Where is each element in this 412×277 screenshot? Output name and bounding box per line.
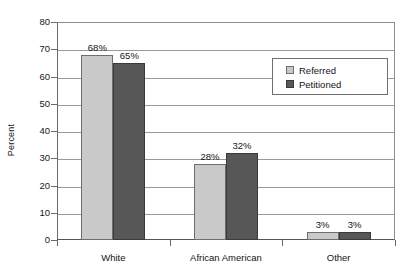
x-category-label: White (57, 252, 170, 263)
legend-item-petitioned: Petitioned (286, 77, 387, 91)
x-tick-mark (395, 240, 396, 246)
y-tick-mark (51, 158, 57, 159)
bar-petitioned-african-american (226, 153, 258, 240)
y-tick-mark (51, 49, 57, 50)
x-tick-mark (282, 240, 283, 246)
y-tick-label: 70 (10, 44, 50, 54)
legend-swatch-petitioned-icon (286, 80, 294, 88)
y-tick-label: 0 (10, 235, 50, 245)
y-tick-label: 50 (10, 99, 50, 109)
bar-petitioned-other (339, 232, 371, 240)
y-tick-mark (51, 186, 57, 187)
x-tick-mark (170, 240, 171, 246)
legend-item-referred: Referred (286, 63, 387, 77)
bar-chart: Percent 01020304050607080 68%65%28%32%3%… (0, 0, 412, 277)
bar-referred-african-american (194, 164, 226, 240)
bar-referred-white (81, 55, 113, 240)
y-tick-mark (51, 213, 57, 214)
legend-label-petitioned: Petitioned (299, 79, 341, 90)
bar-value-label: 3% (331, 219, 379, 230)
x-category-label: African American (170, 252, 283, 263)
y-tick-label: 40 (10, 126, 50, 136)
bar-petitioned-white (113, 63, 145, 240)
bar-referred-other (307, 232, 339, 240)
x-category-label: Other (282, 252, 395, 263)
legend-swatch-referred-icon (286, 66, 294, 74)
bar-value-label: 65% (105, 50, 153, 61)
bar-value-label: 32% (218, 140, 266, 151)
y-tick-mark (51, 104, 57, 105)
y-tick-label: 30 (10, 153, 50, 163)
y-tick-label: 10 (10, 208, 50, 218)
legend-label-referred: Referred (299, 65, 336, 76)
y-tick-label: 80 (10, 17, 50, 27)
x-tick-mark (57, 240, 58, 246)
y-tick-label: 20 (10, 181, 50, 191)
legend: Referred Petitioned (272, 58, 388, 95)
y-tick-mark (51, 131, 57, 132)
y-tick-label: 60 (10, 72, 50, 82)
y-tick-mark (51, 22, 57, 23)
y-tick-mark (51, 77, 57, 78)
